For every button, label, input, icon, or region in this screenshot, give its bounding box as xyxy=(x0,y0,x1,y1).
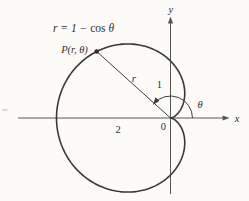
unit-two-label: 2 xyxy=(115,124,120,135)
origin-label: 0 xyxy=(161,121,166,132)
unit-one-label: 1 xyxy=(157,79,162,90)
point-p-dot xyxy=(94,49,99,54)
y-axis-label: y xyxy=(167,4,173,15)
point-p-label: P(r, θ) xyxy=(60,44,88,56)
polar-diagram-canvas: r = 1 − cos θ P(r, θ) r 1 θ 0 2 x y xyxy=(0,0,249,201)
cardioid-figure: r = 1 − cos θ P(r, θ) r 1 θ 0 2 x y xyxy=(0,0,249,201)
theta-label: θ xyxy=(197,99,202,110)
radius-label: r xyxy=(132,72,137,84)
equation-label: r = 1 − cos θ xyxy=(53,22,114,34)
y-axis-arrowhead-icon xyxy=(168,17,173,24)
theta-angle-arc xyxy=(154,96,193,118)
scan-artifact-dash xyxy=(3,109,8,110)
x-axis-arrowhead-icon xyxy=(223,115,230,120)
x-axis-label: x xyxy=(234,113,240,124)
